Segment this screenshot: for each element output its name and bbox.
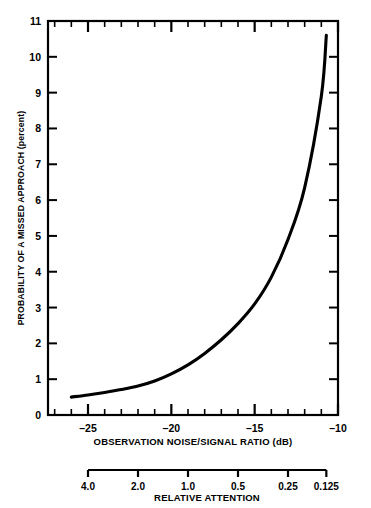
y-tick-label: 9 bbox=[35, 87, 41, 99]
y-tick-label: 8 bbox=[35, 122, 41, 134]
secondary-axis-tick-label: 0.5 bbox=[231, 481, 245, 492]
secondary-axis-tick-label: 2.0 bbox=[131, 481, 145, 492]
secondary-axis-tick-label: 4.0 bbox=[81, 481, 95, 492]
y-tick-label: 6 bbox=[35, 194, 41, 206]
right-axis-ticks bbox=[329, 57, 338, 379]
x-tick-label: –25 bbox=[79, 422, 97, 434]
y-tick-label: 1 bbox=[35, 373, 41, 385]
x-axis: –25–20–15–10 bbox=[55, 404, 347, 434]
secondary-axis-tick-label: 0.125 bbox=[314, 481, 339, 492]
y-axis-title: PROBABILITY OF A MISSED APPROACH (percen… bbox=[16, 111, 26, 326]
x-tick-label: –10 bbox=[329, 422, 347, 434]
secondary-axis-title: RELATIVE ATTENTION bbox=[154, 492, 260, 503]
y-tick-label: 0 bbox=[35, 409, 41, 421]
top-axis-ticks bbox=[55, 21, 338, 32]
x-tick-label: –20 bbox=[163, 422, 181, 434]
chart-svg: PROBABILITY OF A MISSED APPROACH (percen… bbox=[0, 0, 371, 508]
x-tick-label: –15 bbox=[246, 422, 264, 434]
figure-canvas: PROBABILITY OF A MISSED APPROACH (percen… bbox=[0, 0, 371, 508]
y-tick-label: 11 bbox=[30, 15, 41, 27]
secondary-axis-tick-label: 1.0 bbox=[181, 481, 195, 492]
y-tick-label: 5 bbox=[35, 230, 41, 242]
y-tick-label: 7 bbox=[35, 158, 41, 170]
y-tick-label: 3 bbox=[35, 302, 41, 314]
y-tick-label: 10 bbox=[29, 51, 41, 63]
y-axis-title-text: PROBABILITY OF A MISSED APPROACH (percen… bbox=[16, 111, 26, 326]
data-series-curve bbox=[71, 35, 326, 397]
y-tick-label: 2 bbox=[35, 337, 41, 349]
chart-figure: PROBABILITY OF A MISSED APPROACH (percen… bbox=[0, 0, 371, 508]
secondary-axis: 4.02.01.00.50.250.125 bbox=[81, 470, 339, 492]
secondary-axis-tick-label: 0.25 bbox=[278, 481, 298, 492]
y-axis: 01234567891011 bbox=[29, 15, 57, 421]
y-tick-label: 4 bbox=[35, 266, 41, 278]
x-axis-title: OBSERVATION NOISE/SIGNAL RATIO (dB) bbox=[94, 436, 293, 447]
